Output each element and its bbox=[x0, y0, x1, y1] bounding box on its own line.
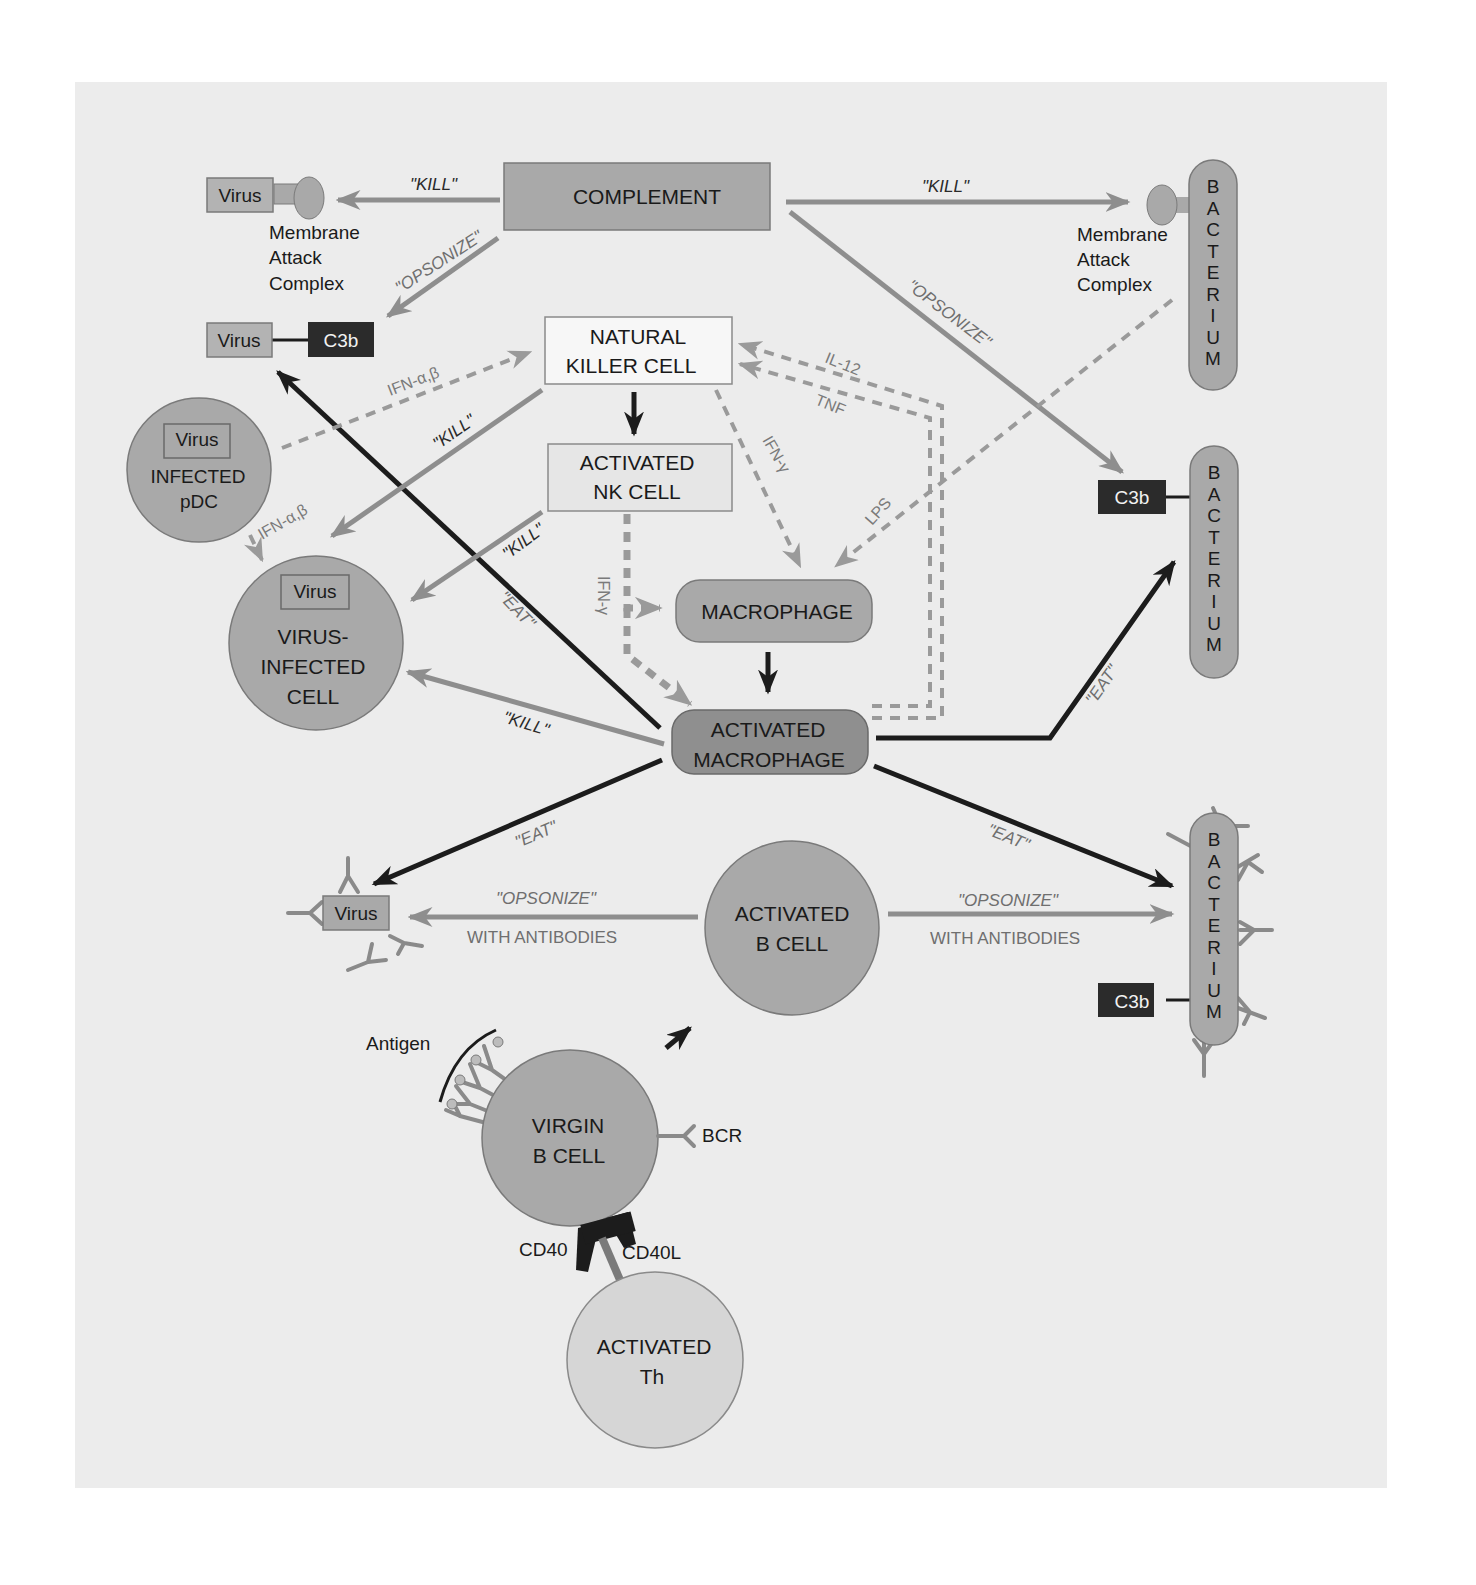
bacterium-letter: M bbox=[1206, 1001, 1222, 1022]
label-kill-virus-mac: "KILL" bbox=[410, 175, 458, 194]
svg-text:Attack: Attack bbox=[1077, 249, 1130, 270]
label-with-antibodies-bacterium: WITH ANTIBODIES bbox=[930, 929, 1080, 948]
bacterium-label: BACTERIUM bbox=[1205, 176, 1221, 369]
bcr-label: BCR bbox=[702, 1125, 742, 1146]
bacterium-letter: E bbox=[1207, 262, 1220, 283]
virus-infected-cell-node[interactable]: Virus VIRUS- INFECTED CELL bbox=[229, 556, 403, 730]
bacterium-letter: B bbox=[1207, 176, 1220, 197]
svg-text:NK CELL: NK CELL bbox=[593, 480, 681, 503]
cd40l-label: CD40L bbox=[622, 1242, 681, 1263]
activated-th-node[interactable]: ACTIVATED Th bbox=[567, 1272, 743, 1448]
svg-text:Complex: Complex bbox=[1077, 274, 1152, 295]
bacterium-letter: C bbox=[1206, 219, 1220, 240]
bacterium-letter: R bbox=[1207, 570, 1221, 591]
mac-label-3: Complex bbox=[269, 273, 344, 294]
label-opsonize-virus-ab: "OPSONIZE" bbox=[496, 889, 597, 908]
bacterium-letter: T bbox=[1208, 527, 1220, 548]
bacterium-letter: B bbox=[1208, 462, 1221, 483]
bacterium-label: BACTERIUM bbox=[1206, 462, 1222, 655]
mac-label-2: Attack bbox=[269, 247, 322, 268]
bacterium-letter: A bbox=[1207, 198, 1220, 219]
bacterium-letter: I bbox=[1210, 305, 1215, 326]
svg-text:ACTIVATED: ACTIVATED bbox=[711, 718, 826, 741]
activated-b-cell-node[interactable]: ACTIVATED B CELL bbox=[705, 841, 879, 1015]
label-ifn-g-activated-nk: IFN-γ bbox=[595, 576, 612, 615]
svg-text:MACROPHAGE: MACROPHAGE bbox=[693, 748, 845, 771]
bacterium-letter: M bbox=[1205, 348, 1221, 369]
bacterium-letter: M bbox=[1206, 634, 1222, 655]
bacterium-letter: U bbox=[1206, 327, 1220, 348]
bacterium-letter: E bbox=[1208, 548, 1221, 569]
virus-label: Virus bbox=[218, 330, 261, 351]
svg-text:Membrane: Membrane bbox=[1077, 224, 1168, 245]
complement-node[interactable]: COMPLEMENT bbox=[504, 163, 770, 230]
svg-text:Th: Th bbox=[640, 1365, 665, 1388]
bacterium-letter: E bbox=[1208, 915, 1221, 936]
bacterium-letter: B bbox=[1208, 829, 1221, 850]
svg-text:VIRUS-: VIRUS- bbox=[277, 625, 348, 648]
bacterium-letter: I bbox=[1211, 591, 1216, 612]
label-opsonize-bacterium-ab: "OPSONIZE" bbox=[958, 891, 1059, 910]
virus-label: Virus bbox=[219, 185, 262, 206]
complement-label: COMPLEMENT bbox=[573, 185, 721, 208]
bacterium-letter: U bbox=[1207, 613, 1221, 634]
bacterium-letter: R bbox=[1206, 284, 1220, 305]
svg-text:B CELL: B CELL bbox=[533, 1144, 605, 1167]
svg-text:Virus: Virus bbox=[294, 581, 337, 602]
bacterium-letter: U bbox=[1207, 980, 1221, 1001]
svg-text:VIRGIN: VIRGIN bbox=[532, 1114, 604, 1137]
bacterium-letter: A bbox=[1208, 851, 1221, 872]
svg-text:INFECTED: INFECTED bbox=[151, 466, 246, 487]
bacterium-letter: C bbox=[1207, 872, 1221, 893]
bacterium-letter: I bbox=[1211, 958, 1216, 979]
cd40-label: CD40 bbox=[519, 1239, 568, 1260]
activated-nk-cell-node[interactable]: ACTIVATED NK CELL bbox=[548, 444, 732, 511]
svg-text:C3b: C3b bbox=[1115, 487, 1150, 508]
bacterium-letter: T bbox=[1208, 894, 1220, 915]
svg-text:ACTIVATED: ACTIVATED bbox=[580, 451, 695, 474]
svg-text:ACTIVATED: ACTIVATED bbox=[735, 902, 850, 925]
svg-text:pDC: pDC bbox=[180, 491, 218, 512]
mac-label-1: Membrane bbox=[269, 222, 360, 243]
svg-text:KILLER CELL: KILLER CELL bbox=[566, 354, 697, 377]
bacterium-letter: T bbox=[1207, 241, 1219, 262]
label-with-antibodies-virus: WITH ANTIBODIES bbox=[467, 928, 617, 947]
svg-text:Virus: Virus bbox=[176, 429, 219, 450]
svg-text:B CELL: B CELL bbox=[756, 932, 828, 955]
natural-killer-cell-node[interactable]: NATURAL KILLER CELL bbox=[545, 317, 732, 384]
svg-text:CELL: CELL bbox=[287, 685, 340, 708]
svg-text:C3b: C3b bbox=[1115, 991, 1150, 1012]
c3b-label: C3b bbox=[324, 330, 359, 351]
svg-text:MACROPHAGE: MACROPHAGE bbox=[701, 600, 853, 623]
label-kill-bacterium-mac: "KILL" bbox=[922, 177, 970, 196]
svg-text:INFECTED: INFECTED bbox=[261, 655, 366, 678]
svg-text:NATURAL: NATURAL bbox=[590, 325, 686, 348]
macrophage-node[interactable]: MACROPHAGE bbox=[676, 580, 872, 642]
antigen-label: Antigen bbox=[366, 1033, 430, 1054]
bacterium-letter: A bbox=[1208, 484, 1221, 505]
bacterium-letter: C bbox=[1207, 505, 1221, 526]
bacterium-letter: R bbox=[1207, 937, 1221, 958]
bacterium-label: BACTERIUM bbox=[1206, 829, 1222, 1022]
immune-response-diagram: COMPLEMENT Virus Membrane Attack Complex… bbox=[0, 0, 1476, 1585]
svg-text:Virus: Virus bbox=[335, 903, 378, 924]
infected-pdc-node[interactable]: Virus INFECTED pDC bbox=[127, 398, 271, 542]
svg-text:ACTIVATED: ACTIVATED bbox=[597, 1335, 712, 1358]
activated-macrophage-node[interactable]: ACTIVATED MACROPHAGE bbox=[672, 710, 868, 774]
